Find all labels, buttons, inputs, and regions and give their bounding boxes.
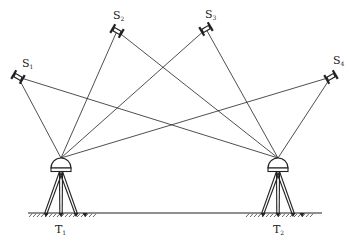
signal-line-s1-t2 [18, 77, 278, 158]
receiver-t1 [44, 158, 88, 217]
ground-hatch [254, 214, 257, 217]
satellite-s2-icon [109, 24, 124, 39]
receiver-t2 [261, 158, 305, 217]
ground-hatch [69, 214, 72, 217]
label-t2: T2 [273, 223, 284, 236]
antenna-dome-icon [268, 158, 288, 168]
antenna-base-plate [268, 168, 288, 172]
label-t1: T1 [55, 223, 66, 236]
label-s1: S1 [22, 57, 33, 70]
tripod-foot [44, 213, 49, 217]
tripod-foot [261, 213, 266, 217]
ground-hatch [282, 214, 285, 217]
signal-lines [18, 29, 331, 158]
ground-hatch [37, 214, 40, 217]
ground-hatch [29, 214, 32, 217]
tripod-leg [280, 172, 295, 214]
signal-line-s3-t1 [61, 29, 206, 158]
antenna-dome-icon [51, 158, 71, 168]
ground-hatch [258, 214, 261, 217]
label-s4: S4 [333, 54, 345, 67]
ground-hatch [49, 214, 52, 217]
ground-hatch [286, 214, 289, 217]
ground-hatch [306, 214, 309, 217]
ground-hatch [41, 214, 44, 217]
ground-hatch [65, 214, 68, 217]
ground-hatch [89, 214, 92, 217]
antenna-base-plate [51, 168, 71, 172]
tripod-leg [63, 172, 78, 214]
signal-line-s4-t2 [278, 77, 331, 158]
satellite-s1-icon [10, 70, 25, 85]
receivers [44, 158, 305, 217]
ground-hatch [310, 214, 313, 217]
satellites [10, 22, 338, 85]
label-s3: S3 [205, 8, 217, 21]
ground-hatch [246, 214, 249, 217]
satellite-s4-icon [323, 70, 338, 85]
tripod-leg [262, 172, 277, 214]
tripod-leg [45, 172, 60, 214]
ground-hatch [93, 214, 96, 217]
signal-line-s1-t1 [18, 77, 61, 158]
signal-line-s2-t1 [61, 31, 117, 158]
signal-line-s4-t1 [61, 77, 331, 158]
ground-hatch [266, 214, 269, 217]
ground-hatch [33, 214, 36, 217]
ground-hatch [53, 214, 56, 217]
ground-hatch [250, 214, 253, 217]
signal-line-s2-t2 [117, 31, 278, 158]
gnss-relative-positioning-diagram: S1S2S3S4T1T2 [0, 0, 350, 246]
label-s2: S2 [113, 9, 125, 22]
ground-hatch [270, 214, 273, 217]
